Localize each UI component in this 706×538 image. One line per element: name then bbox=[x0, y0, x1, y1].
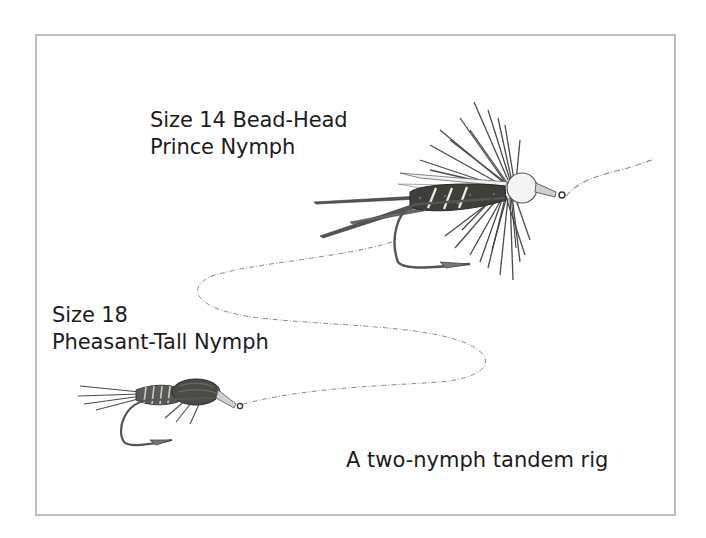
pheasant-tail-nymph-icon bbox=[78, 379, 243, 445]
prince-nymph-icon bbox=[314, 102, 565, 280]
diagram-caption: A two-nymph tandem rig bbox=[346, 447, 608, 474]
upper-fly-label: Size 14 Bead-Head Prince Nymph bbox=[150, 107, 348, 161]
lower-fly-label-line2: Pheasant-Tall Nymph bbox=[52, 329, 269, 356]
upper-fly-label-line1: Size 14 Bead-Head bbox=[150, 107, 348, 134]
upper-fly-label-line2: Prince Nymph bbox=[150, 134, 348, 161]
lower-fly-label-line1: Size 18 bbox=[52, 302, 269, 329]
lower-fly-label: Size 18 Pheasant-Tall Nymph bbox=[52, 302, 269, 356]
